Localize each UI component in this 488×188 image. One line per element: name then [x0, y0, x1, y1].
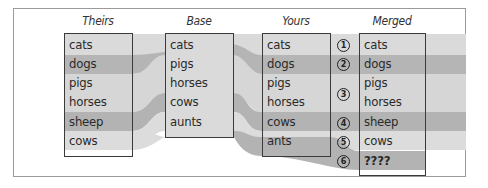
- theirs-row: cows: [69, 131, 97, 150]
- merged-row: sheep: [364, 112, 398, 131]
- merged-row: pigs: [364, 73, 387, 92]
- yours-row: pigs: [267, 73, 290, 92]
- marker-1-icon: 1: [337, 39, 350, 52]
- marker-5-icon: 5: [337, 136, 350, 149]
- merged-row: dogs: [364, 54, 391, 73]
- base-row: pigs: [170, 54, 193, 73]
- column-title-yours: Yours: [262, 14, 330, 28]
- column-title-theirs: Theirs: [64, 14, 132, 28]
- yours-row: ants: [267, 131, 291, 150]
- yours-row: cows: [267, 112, 295, 131]
- base-row: aunts: [170, 112, 202, 131]
- marker-6-icon: 6: [337, 155, 350, 168]
- yours-row: dogs: [267, 54, 294, 73]
- merged-row: cats: [364, 35, 387, 54]
- theirs-row: horses: [69, 92, 107, 111]
- column-title-base: Base: [165, 14, 233, 28]
- column-title-merged: Merged: [359, 14, 425, 28]
- base-row: cows: [170, 92, 198, 111]
- merged-row: horses: [364, 92, 402, 111]
- merged-row-conflict: ????: [364, 151, 390, 170]
- yours-row: cats: [267, 35, 290, 54]
- theirs-row: pigs: [69, 73, 92, 92]
- base-box: cats pigs horses cows aunts: [165, 33, 234, 138]
- theirs-box: cats dogs pigs horses sheep cows: [64, 33, 133, 157]
- marker-4-icon: 4: [337, 117, 350, 130]
- theirs-row: dogs: [69, 54, 96, 73]
- marker-2-icon: 2: [337, 58, 350, 71]
- merged-row: cows: [364, 131, 392, 150]
- theirs-row: cats: [69, 35, 92, 54]
- yours-box: cats dogs pigs horses cows ants: [262, 33, 331, 157]
- merged-box: cats dogs pigs horses sheep cows ????: [359, 33, 426, 176]
- marker-3-icon: 3: [337, 88, 350, 101]
- yours-row: horses: [267, 92, 305, 111]
- base-row: cats: [170, 35, 193, 54]
- theirs-row: sheep: [69, 112, 103, 131]
- base-row: horses: [170, 73, 208, 92]
